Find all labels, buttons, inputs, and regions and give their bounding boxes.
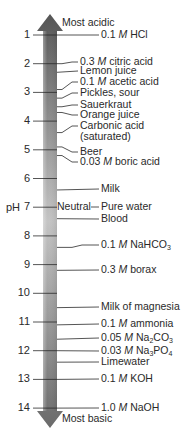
tick-label-1: 1 <box>12 29 30 40</box>
substance-label: Milk <box>101 183 120 194</box>
leader-line <box>57 245 99 247</box>
leader-line <box>57 147 78 152</box>
tick-label-12: 12 <box>12 345 30 356</box>
substance-label: 0.3 M borax <box>101 264 156 275</box>
tick-label-11: 11 <box>12 316 30 327</box>
substance-label: Blood <box>101 213 128 224</box>
substance-label: Milk of magnesia <box>101 301 180 312</box>
most-acidic-label: Most acidic <box>62 17 115 28</box>
leader-line <box>57 338 99 339</box>
leader-line <box>57 126 78 133</box>
tick-label-8: 8 <box>12 230 30 241</box>
tick-label-14: 14 <box>12 402 30 413</box>
tick-label-3: 3 <box>12 86 30 97</box>
tick-label-2: 2 <box>12 58 30 69</box>
tick-label-5: 5 <box>12 144 30 155</box>
leader-line <box>57 112 78 115</box>
leader-line <box>57 324 99 325</box>
leader-line <box>57 105 78 107</box>
tick-label-9: 9 <box>12 259 30 270</box>
substance-label: 0.03 M boric acid <box>80 156 160 167</box>
substance-label: 0.05 M Na2CO3 <box>101 332 173 343</box>
leader-line <box>57 62 78 64</box>
substance-label: Limewater <box>101 356 149 367</box>
substance-label: 0.1 M ammonia <box>101 318 173 329</box>
leader-line <box>57 71 78 72</box>
substance-label: Pure water <box>101 201 152 212</box>
substance-label: 1.0 M NaOH <box>101 402 159 413</box>
ph-arrow-bar <box>37 14 63 428</box>
substance-label: 0.1 M NaHCO3 <box>101 239 171 250</box>
neutral-label: Neutral <box>57 201 91 212</box>
substance-label: 0.1 M HCl <box>101 29 148 40</box>
leader-line <box>57 189 99 190</box>
tick-label-10: 10 <box>12 287 30 298</box>
leader-line <box>57 307 99 308</box>
leader-line <box>57 82 78 90</box>
tick-label-4: 4 <box>12 115 30 126</box>
most-basic-label: Most basic <box>62 413 112 424</box>
substance-label: 0.1 M KOH <box>101 373 153 384</box>
tick-label-13: 13 <box>12 373 30 384</box>
substance-label-continued: (saturated) <box>80 131 131 142</box>
tick-label-7: 7 <box>12 201 30 212</box>
substance-label: Pickles, sour <box>80 87 140 98</box>
leader-line <box>57 93 78 98</box>
ph-scale-diagram: Most acidic Most basic pH 12345678910111… <box>0 0 187 435</box>
tick-label-6: 6 <box>12 173 30 184</box>
leader-line <box>57 156 78 162</box>
